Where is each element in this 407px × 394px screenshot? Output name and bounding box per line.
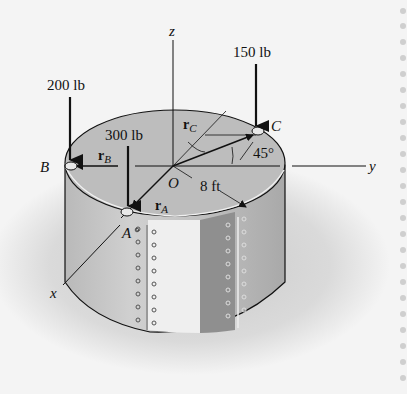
x-axis-label: x [49,285,57,301]
origin-label: O [168,175,179,191]
bolt-A [121,208,133,216]
z-axis-label: z [168,23,175,39]
tank-top [65,110,285,216]
angle-label: 45° [253,145,274,161]
y-axis-label: y [367,158,376,174]
bolt-B [65,162,77,170]
point-B-label: B [40,159,49,175]
point-A-label: A [121,225,132,241]
page-edge-binding [399,0,407,394]
radius-label: 8 ft [200,178,221,194]
tank-panel-light [148,220,200,333]
tank-force-diagram: z y x O B C A 200 lb 300 lb 150 lb rB rC… [0,0,407,394]
force-B-label: 200 lb [47,77,85,93]
bolt-C [252,127,264,135]
force-A-label: 300 lb [105,127,143,143]
point-C-label: C [271,118,282,134]
force-C-label: 150 lb [233,44,271,60]
